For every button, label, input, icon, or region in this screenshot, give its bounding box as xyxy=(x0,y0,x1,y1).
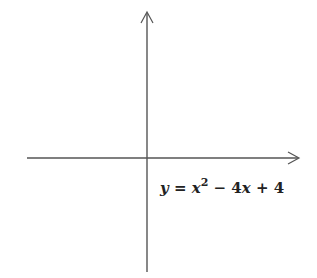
parabola-graph: y = x2 − 4x + 4 xyxy=(0,0,317,278)
x-axis xyxy=(27,152,299,164)
equation-label: y = x2 − 4x + 4 xyxy=(159,176,284,197)
y-axis xyxy=(141,12,153,272)
